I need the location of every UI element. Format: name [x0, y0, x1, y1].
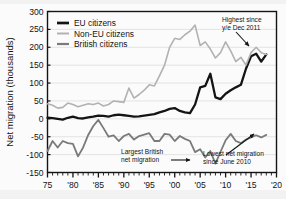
legend-label-british-citizens: British citizens	[74, 39, 128, 49]
y-tick-label: 200	[29, 42, 44, 52]
y-tick-label: 150	[29, 60, 44, 70]
legend-label-non-eu-citizens: Non-EU citizens	[74, 29, 134, 39]
net-migration-line-chart: 300250200150100500-50-100-150 75'80'85'9…	[0, 0, 286, 199]
x-tick-label: 75	[43, 180, 53, 190]
y-tick-label: 250	[29, 24, 44, 34]
x-tick-label: '05	[195, 180, 206, 190]
y-tick-label: 0	[39, 114, 44, 124]
chart-figure: 300250200150100500-50-100-150 75'80'85'9…	[0, 0, 286, 199]
x-tick-label: '20	[271, 180, 282, 190]
x-tick-label: '95	[144, 180, 155, 190]
y-tick-label: -50	[31, 132, 44, 142]
x-tick-label: '15	[245, 180, 256, 190]
chart-annotations: Highest sincey/e Dec 2011Largest British…	[121, 16, 264, 165]
y-tick-label: 300	[29, 7, 44, 17]
y-tick-label: 50	[34, 96, 44, 106]
y-tick-label: 100	[29, 78, 44, 88]
x-tick-label: '10	[220, 180, 231, 190]
series-line-eu-citizens	[48, 54, 267, 120]
chart-legend: EU citizensNon-EU citizensBritish citize…	[57, 18, 134, 49]
x-tick-label: '85	[93, 180, 104, 190]
y-axis-label: Net migration (thousands)	[4, 37, 15, 146]
annotation-line-2: net migration	[121, 156, 159, 164]
x-tick-label: '00	[169, 180, 180, 190]
annotation-line-2: since June 2010	[203, 158, 251, 165]
x-axis-ticks: 75'80'85'90'95'00'05'10'15'20	[43, 173, 283, 190]
largest-british-annotation: Largest Britishnet migration	[121, 148, 190, 164]
highest-since-annotation: Highest sincey/e Dec 2011	[222, 16, 262, 46]
x-tick-label: '80	[67, 180, 78, 190]
annotation-line-2: y/e Dec 2011	[222, 24, 261, 32]
annotation-arrow	[236, 32, 249, 46]
x-tick-label: '90	[118, 180, 129, 190]
y-tick-label: -150	[26, 168, 43, 178]
legend-label-eu-citizens: EU citizens	[74, 18, 116, 28]
y-tick-label: -100	[26, 150, 43, 160]
